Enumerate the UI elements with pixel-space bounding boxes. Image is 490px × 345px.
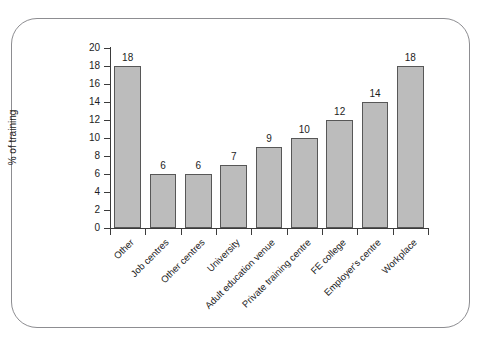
bar bbox=[150, 174, 177, 228]
y-tick-mark bbox=[104, 84, 110, 85]
y-tick-label: 18 bbox=[78, 61, 100, 71]
y-tick-label: 0 bbox=[78, 223, 100, 233]
y-tick-label: 12 bbox=[78, 115, 100, 125]
bar bbox=[256, 147, 283, 228]
bar-value-label: 10 bbox=[282, 124, 327, 135]
x-tick-mark bbox=[145, 228, 146, 235]
y-axis-line bbox=[110, 47, 111, 229]
y-tick-label: 2 bbox=[78, 205, 100, 215]
y-tick-label: 8 bbox=[78, 151, 100, 161]
y-tick-label: 10 bbox=[78, 133, 100, 143]
x-tick-mark bbox=[322, 228, 323, 235]
bar-value-label: 18 bbox=[388, 52, 433, 63]
y-tick-mark bbox=[104, 156, 110, 157]
y-tick-label: 20 bbox=[78, 43, 100, 53]
y-tick-label: 14 bbox=[78, 97, 100, 107]
x-tick-mark bbox=[287, 228, 288, 235]
x-tick-mark bbox=[110, 228, 111, 235]
y-tick-label: 6 bbox=[78, 169, 100, 179]
y-tick-mark bbox=[104, 48, 110, 49]
y-tick-mark bbox=[104, 66, 110, 67]
y-tick-label: 16 bbox=[78, 79, 100, 89]
bar bbox=[114, 66, 141, 228]
bar-value-label: 7 bbox=[211, 151, 256, 162]
bar-value-label: 12 bbox=[317, 106, 362, 117]
bar-value-label: 18 bbox=[105, 52, 150, 63]
x-tick-mark bbox=[251, 228, 252, 235]
y-tick-mark bbox=[104, 174, 110, 175]
y-tick-mark bbox=[104, 102, 110, 103]
y-tick-mark bbox=[104, 210, 110, 211]
bar bbox=[362, 102, 389, 228]
y-tick-label: 4 bbox=[78, 187, 100, 197]
x-tick-mark bbox=[393, 228, 394, 235]
bar bbox=[397, 66, 424, 228]
bar-value-label: 14 bbox=[352, 88, 397, 99]
bar bbox=[220, 165, 247, 228]
y-axis-title: % of training bbox=[7, 93, 18, 183]
y-tick-mark bbox=[104, 192, 110, 193]
x-tick-mark bbox=[181, 228, 182, 235]
x-tick-mark bbox=[357, 228, 358, 235]
y-tick-mark bbox=[104, 138, 110, 139]
y-tick-mark bbox=[104, 120, 110, 121]
bar-chart: % of training 02468101214161820 18667910… bbox=[0, 0, 490, 345]
bar bbox=[185, 174, 212, 228]
bar bbox=[291, 138, 318, 228]
x-axis-line bbox=[110, 228, 429, 229]
x-tick-mark bbox=[216, 228, 217, 235]
bar bbox=[326, 120, 353, 228]
x-tick-mark bbox=[428, 228, 429, 235]
